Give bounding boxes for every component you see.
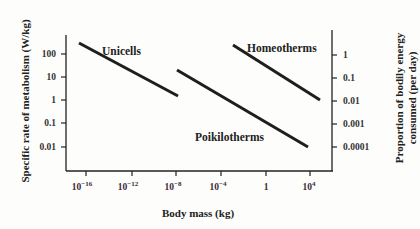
left-y-axis-title: Specific rate of metabolism (W/kg) [19,19,32,182]
y-tick-label: 0.01 [39,142,56,152]
y-tick-label: 100 [42,49,57,59]
x-tick-label: 10−8 [165,180,182,192]
x-tick-label: 1 [264,182,269,192]
x-axis-title: Body mass (kg) [162,207,234,220]
right-y-tick-label: 0.1 [343,73,355,83]
x-tick-label: 10−12 [118,180,139,192]
y-tick-label: 0.1 [44,118,56,128]
right-y-tick-label: 1 [343,50,348,60]
series-label-poikilotherms: Poikilotherms [195,131,265,143]
right-y-axis-title-line2: consumed (per day) [406,51,419,144]
left-y-ticks: 100 10 1 0.1 0.01 [39,49,66,152]
right-y-tick-label: 0.0001 [343,142,369,152]
metabolism-chart: 100 10 1 0.1 0.01 1 0.1 0.01 0.001 0.000… [0,0,420,229]
x-ticks: 10−16 10−12 10−8 10−4 1 104 [72,171,316,192]
series-label-homeotherms: Homeotherms [247,42,317,54]
series-label-unicells: Unicells [102,45,141,57]
right-y-axis-title-line1: Proportion of bodily energy [393,32,405,163]
y-tick-label: 1 [51,95,56,105]
x-tick-label: 10−16 [72,180,93,192]
x-tick-label: 104 [303,180,317,192]
right-y-tick-label: 0.001 [343,119,365,129]
x-tick-label: 10−4 [210,180,227,192]
right-y-tick-label: 0.01 [343,96,360,106]
y-tick-label: 10 [47,72,57,82]
right-y-ticks: 1 0.1 0.01 0.001 0.0001 [332,50,369,152]
